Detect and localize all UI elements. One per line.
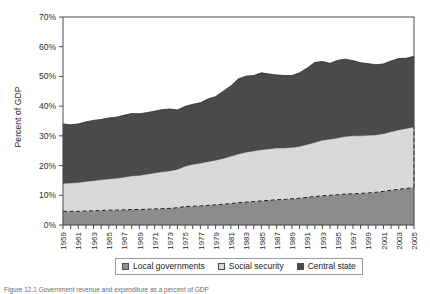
x-tick-label: 1973 bbox=[166, 231, 175, 249]
x-tick-label: 1959 bbox=[59, 231, 68, 249]
x-tick-label: 1989 bbox=[288, 231, 297, 249]
legend-item-social-security: Social security bbox=[218, 261, 284, 271]
legend-label-local-governments: Local governments bbox=[133, 261, 205, 271]
figure-caption: Figure 12.1 Government revenue and expen… bbox=[4, 285, 428, 294]
y-tick-label: 70% bbox=[39, 12, 56, 22]
stacked-area-chart: 0%10%20%30%40%50%60%70%19591961196319651… bbox=[0, 0, 430, 258]
x-tick-label: 1987 bbox=[273, 231, 282, 249]
legend-label-social-security: Social security bbox=[229, 261, 284, 271]
x-tick-label: 1983 bbox=[242, 231, 251, 249]
x-tick-label: 2003 bbox=[395, 231, 404, 249]
chart-plot-area: 0%10%20%30%40%50%60%70%19591961196319651… bbox=[0, 0, 430, 258]
x-tick-label: 1975 bbox=[181, 231, 190, 249]
y-tick-label: 60% bbox=[39, 42, 56, 52]
x-tick-label: 1997 bbox=[349, 231, 358, 249]
y-tick-label: 40% bbox=[39, 101, 56, 111]
x-tick-label: 1981 bbox=[227, 231, 236, 249]
y-tick-label: 0% bbox=[44, 220, 57, 230]
y-tick-label: 30% bbox=[39, 131, 56, 141]
x-tick-label: 1961 bbox=[74, 231, 83, 249]
x-tick-label: 1965 bbox=[105, 231, 114, 249]
x-tick-label: 1993 bbox=[319, 231, 328, 249]
x-tick-label: 2005 bbox=[410, 231, 419, 249]
x-tick-label: 1991 bbox=[303, 231, 312, 249]
legend-swatch-social-security bbox=[218, 263, 225, 270]
y-tick-label: 10% bbox=[39, 190, 56, 200]
legend-item-local-governments: Local governments bbox=[122, 261, 205, 271]
legend-swatch-local-governments bbox=[122, 263, 129, 270]
x-tick-label: 1971 bbox=[151, 231, 160, 249]
legend-label-central-state: Central state bbox=[308, 261, 356, 271]
x-tick-label: 1969 bbox=[136, 231, 145, 249]
x-tick-label: 1979 bbox=[212, 231, 221, 249]
x-tick-label: 1999 bbox=[364, 231, 373, 249]
x-tick-label: 1977 bbox=[197, 231, 206, 249]
legend-item-central-state: Central state bbox=[297, 261, 356, 271]
y-tick-label: 50% bbox=[39, 71, 56, 81]
x-tick-label: 1967 bbox=[120, 231, 129, 249]
x-tick-label: 1963 bbox=[90, 231, 99, 249]
x-tick-label: 2001 bbox=[380, 231, 389, 249]
legend-swatch-central-state bbox=[297, 263, 304, 270]
y-tick-label: 20% bbox=[39, 161, 56, 171]
figure: 0%10%20%30%40%50%60%70%19591961196319651… bbox=[0, 0, 430, 294]
chart-legend: Local governments Social security Centra… bbox=[115, 258, 363, 275]
y-axis-title: Percent of GDP bbox=[13, 52, 23, 182]
x-tick-label: 1985 bbox=[258, 231, 267, 249]
x-tick-label: 1995 bbox=[334, 231, 343, 249]
